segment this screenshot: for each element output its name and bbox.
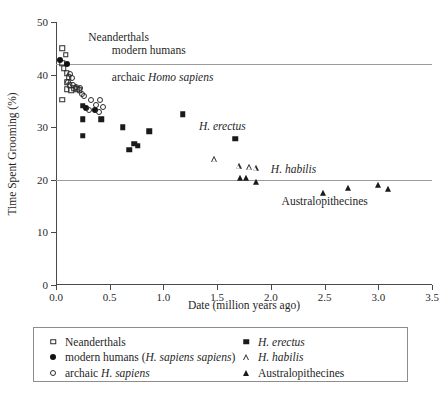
annotation-modern-humans: modern humans	[112, 44, 186, 57]
annotation-australopithecines: Australopithecines	[282, 195, 368, 208]
data-point-neanderthals	[60, 46, 66, 52]
gridline-y-42	[56, 64, 432, 65]
legend-column-right: H. erectusH. habilisAustralopithecines	[239, 334, 344, 381]
data-point-archaic-h-sapiens	[93, 102, 99, 108]
legend-item-h-habilis[interactable]: H. habilis	[239, 350, 344, 366]
annotation-text-italic: Homo sapiens	[148, 71, 214, 83]
legend-item-label: Australopithecines	[258, 367, 344, 379]
filled-circle-glyph	[50, 354, 56, 360]
legend-item-label: archaic H. sapiens	[65, 367, 150, 379]
legend-marker-open-circle-icon	[46, 367, 60, 379]
legend-item-label: H. erectus	[258, 336, 305, 348]
legend-marker-filled-square-icon	[239, 336, 253, 348]
y-tick-30: 30	[56, 127, 57, 128]
data-point-h-erectus	[147, 129, 153, 135]
x-tick-mark	[378, 285, 379, 290]
data-point-neanderthals	[60, 97, 66, 103]
x-axis-title: Date (million years ago)	[56, 299, 432, 311]
y-tick-label: 0	[43, 280, 49, 291]
x-tick-mark	[163, 285, 164, 290]
legend-item-h-erectus[interactable]: H. erectus	[239, 334, 344, 350]
data-point-australopithecines	[375, 182, 381, 188]
data-point-h-erectus	[80, 133, 86, 139]
data-point-archaic-h-sapiens	[97, 97, 103, 103]
data-point-archaic-h-sapiens	[81, 93, 87, 99]
annotation-neanderthals: Neanderthals	[88, 31, 149, 44]
legend-column-left: Neanderthalsmodern humans (H. sapiens sa…	[46, 334, 235, 381]
y-tick-40: 40	[56, 75, 57, 76]
legend-box: Neanderthalsmodern humans (H. sapiens sa…	[33, 327, 408, 382]
legend-marker-open-square-icon	[46, 336, 60, 348]
x-tick-mark	[271, 285, 272, 290]
legend-item-h-sapiens-sapiens[interactable]: modern humans (H. sapiens sapiens)	[46, 350, 235, 366]
y-tick-10: 10	[56, 232, 57, 233]
data-point-h-erectus	[120, 124, 126, 130]
x-tick-mark	[432, 285, 433, 290]
legend-item-label: Neanderthals	[65, 336, 126, 348]
data-point-archaic-h-sapiens	[86, 107, 92, 113]
legend-marker-filled-triangle-icon	[239, 367, 253, 379]
legend-item-label: modern humans (H. sapiens sapiens)	[65, 351, 235, 363]
data-point-h-habilis	[253, 165, 259, 171]
y-tick-label: 50	[37, 17, 48, 28]
y-tick-mark	[51, 127, 56, 128]
legend-item-h-sapiens[interactable]: archaic H. sapiens	[46, 365, 235, 381]
x-tick-2.5: 2.5	[325, 285, 326, 286]
filled-triangle-glyph	[243, 370, 249, 376]
y-tick-20: 20	[56, 180, 57, 181]
x-tick-0.5: 0.5	[110, 285, 111, 286]
data-point-h-erectus	[80, 117, 86, 123]
annotation-text-italic: H. erectus	[199, 120, 246, 132]
legend-item-neanderthals[interactable]: Neanderthals	[46, 334, 235, 350]
open-circle-glyph	[50, 370, 56, 376]
y-tick-label: 20	[37, 174, 48, 185]
x-tick-3.5: 3.5	[432, 285, 433, 286]
x-tick-mark	[56, 285, 57, 290]
filled-square-glyph	[243, 339, 249, 345]
data-point-australopithecines	[345, 184, 351, 190]
plot-panel: 01020304050 0.00.51.01.52.02.53.03.5 Nea…	[56, 22, 432, 285]
y-tick-mark	[51, 180, 56, 181]
x-tick-1.5: 1.5	[217, 285, 218, 286]
annotation-text-italic: H. habilis	[271, 163, 316, 175]
y-axis-title-text: Time Spent Grooming (%)	[6, 92, 18, 215]
x-axis-line	[56, 284, 432, 285]
annotation-archaic-homo-sapiens: archaic Homo sapiens	[112, 71, 214, 84]
plot-area: 01020304050 0.00.51.01.52.02.53.03.5 Nea…	[56, 22, 432, 285]
data-point-australopithecines	[253, 179, 259, 185]
x-tick-mark	[110, 285, 111, 290]
y-tick-mark	[51, 22, 56, 23]
data-point-h-habilis	[211, 156, 217, 162]
x-tick-0.0: 0.0	[56, 285, 57, 286]
data-point-h-erectus	[135, 143, 141, 149]
y-tick-label: 40	[37, 69, 48, 80]
y-tick-mark	[51, 75, 56, 76]
data-point-neanderthals	[63, 52, 69, 58]
annotation-h-habilis: H. habilis	[271, 163, 316, 176]
x-tick-2.0: 2.0	[271, 285, 272, 286]
y-tick-50: 50	[56, 22, 57, 23]
data-point-modern-humans-h-sapiens-sapiens	[57, 57, 63, 63]
data-point-h-erectus	[180, 111, 186, 117]
x-tick-3.0: 3.0	[378, 285, 379, 286]
y-tick-label: 10	[37, 227, 48, 238]
data-point-h-habilis	[246, 164, 252, 170]
data-point-australopithecines	[243, 174, 249, 180]
x-tick-mark	[325, 285, 326, 290]
annotation-h-erectus: H. erectus	[199, 120, 246, 133]
data-point-australopithecines	[385, 186, 391, 192]
data-point-archaic-h-sapiens	[96, 109, 102, 115]
open-triangle-glyph	[243, 354, 249, 360]
y-tick-label: 30	[37, 122, 48, 133]
data-point-h-habilis	[236, 163, 242, 169]
data-point-h-erectus	[126, 147, 132, 153]
data-point-h-erectus	[80, 103, 86, 109]
data-point-h-erectus	[98, 117, 104, 123]
x-tick-1.0: 1.0	[163, 285, 164, 286]
legend-item-australopithecines[interactable]: Australopithecines	[239, 365, 344, 381]
y-tick-mark	[51, 232, 56, 233]
legend-item-label: H. habilis	[258, 351, 303, 363]
legend-marker-filled-circle-icon	[46, 351, 60, 363]
y-axis-title: Time Spent Grooming (%)	[4, 22, 20, 285]
data-point-h-erectus	[233, 136, 239, 142]
